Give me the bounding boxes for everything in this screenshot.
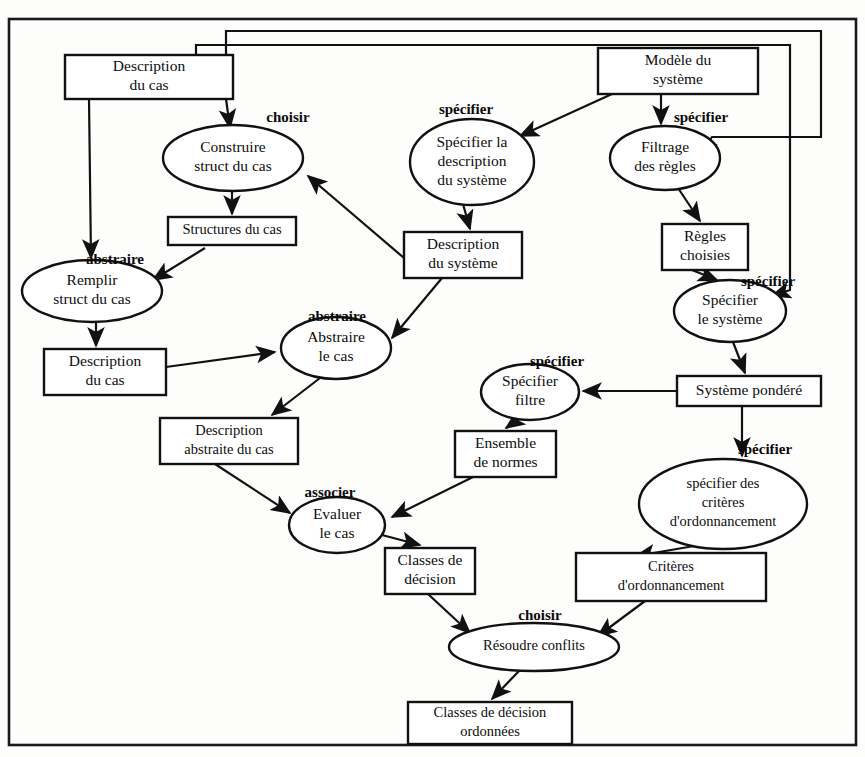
verb-label-associer-evaluer: associer [305,484,356,500]
node-classes-de-decision[interactable]: Classes dedécision [385,548,475,594]
edge-regles-to-specsysteme [692,270,717,280]
node-label: Système pondéré [696,381,802,398]
node-specifier-filtre[interactable]: Spécifierfiltre [481,364,579,420]
edge-modele-to-specdesc [520,94,612,136]
node-label: Classes de décision [434,704,548,720]
node-label: Règles [684,227,726,244]
edge-specfiltre-to-ensemble [506,419,519,428]
node-label: du système [437,171,506,188]
node-label: Description [427,235,500,252]
edge-filtrage-to-regles [678,188,700,221]
edge-classes-to-resoudre [428,594,470,633]
node-criteres-d-ordonnancement[interactable]: Critèresd'ordonnancement [576,553,766,601]
node-label: du cas [85,371,124,388]
node-label: du système [428,254,497,271]
verb-label-specifier-filtre-label: spécifier [530,353,584,369]
edge-desccas-to-construire [226,99,230,128]
node-label: Ensemble [475,434,536,451]
node-label: filtre [515,391,545,408]
node-label: Structures du cas [182,221,281,237]
node-label: d'ordonnancement [618,577,725,593]
node-label: description [438,152,507,169]
node-label: Evaluer [313,505,362,522]
node-label: Résoudre conflits [483,637,585,653]
node-label: critères [702,494,745,510]
node-label: décision [404,570,456,587]
node-label: Filtrage [641,138,689,155]
node-description-abstraite-du-cas[interactable]: Descriptionabstraite du cas [160,418,298,464]
verb-label-specifier-systeme: spécifier [741,273,795,289]
node-label: Spécifier [702,291,759,308]
verb-label-choisir-construire: choisir [266,109,310,125]
verb-label-choisir-resoudre: choisir [518,607,562,623]
edge-resoudre-to-classesord [492,670,520,699]
edge-ensemble-to-evaluer [392,477,473,517]
node-label: choisies [680,246,730,263]
node-ensemble-de-normes[interactable]: Ensemblede normes [455,431,556,477]
node-label: d'ordonnancement [670,513,777,529]
node-classes-de-decision-ordonnees[interactable]: Classes de décisionordonnées [408,702,572,744]
edge-criteres-to-resoudre [598,601,645,636]
verb-label-specifier-criteres: spécifier [738,441,792,457]
verb-label-specifier-description: spécifier [439,101,493,117]
node-label: le cas [319,347,354,364]
node-specifier-des-criteres-d-ordonnancement[interactable]: spécifier descritèresd'ordonnancement [639,459,807,549]
node-modele-du-systeme[interactable]: Modèle dusystème [598,48,758,94]
node-description-du-systeme[interactable]: Descriptiondu système [404,232,522,278]
node-description-du-cas-top[interactable]: Descriptiondu cas [65,55,233,99]
edge-desccasleft-to-abstraire [166,352,275,367]
node-label: struct du cas [194,157,271,174]
node-layer: Descriptiondu casModèle dusystèmeConstru… [22,48,821,744]
node-label: struct du cas [53,290,130,307]
node-systeme-pondere[interactable]: Système pondéré [677,376,821,406]
node-label: ordonnées [460,723,520,739]
edge-descsysteme-to-construire [308,176,404,258]
node-label: de normes [473,453,537,470]
edge-abstraire-to-descabstraite [272,378,320,415]
verb-label-abstraire-remplir: abstraire [86,251,144,267]
node-label: spécifier des [687,475,760,491]
node-label: Abstraire [307,328,365,345]
node-abstraire-le-cas[interactable]: Abstrairele cas [281,317,391,379]
node-label: du cas [129,76,168,93]
edge-desccas-to-remplir [89,99,91,258]
node-label: Spécifier [502,372,559,389]
node-label: Description [69,352,142,369]
verb-label-specifier-filtrage: spécifier [674,109,728,125]
node-label: Spécifier la [436,133,507,150]
verb-label-abstraire-abstraire: abstraire [308,308,366,324]
node-structures-du-cas[interactable]: Structures du cas [168,217,296,245]
node-resoudre-conflits[interactable]: Résoudre conflits [449,623,619,671]
node-label: le système [698,310,763,327]
node-label: Critères [648,558,694,574]
edge-specdesc-to-descsysteme [463,204,470,229]
edge-descabstraite-to-evaluer [215,464,290,513]
edge-evaluer-to-classes [382,535,420,545]
edge-structures-to-remplir [153,248,205,280]
node-label: Description [113,57,186,74]
node-label: Construire [200,138,266,155]
node-label: système [653,70,703,87]
node-specifier-la-description-du-systeme[interactable]: Spécifier ladescriptiondu système [410,119,534,205]
node-label: Remplir [67,271,119,288]
node-label: le cas [320,524,355,541]
edge-descsysteme-to-abstraire [392,278,442,338]
node-construire-struct-du-cas[interactable]: Construirestruct du cas [163,125,303,191]
node-label: Classes de [397,551,462,568]
node-regles-choisies[interactable]: Règleschoisies [662,224,748,270]
node-label: des règles [634,157,696,174]
edge-specsysteme-to-systpondere [733,342,745,373]
node-description-du-cas-left[interactable]: Descriptiondu cas [44,349,166,395]
node-filtrage-des-regles[interactable]: Filtragedes règles [610,126,720,190]
flow-diagram: Descriptiondu casModèle dusystèmeConstru… [0,0,865,757]
node-label: abstraite du cas [184,441,274,457]
diagram-canvas: Descriptiondu casModèle dusystèmeConstru… [0,0,865,757]
node-label: Description [195,422,263,438]
node-label: Modèle du [645,51,712,68]
node-evaluer-le-cas[interactable]: Evaluerle cas [289,497,385,553]
node-remplir-struct-du-cas[interactable]: Remplirstruct du cas [22,260,162,322]
